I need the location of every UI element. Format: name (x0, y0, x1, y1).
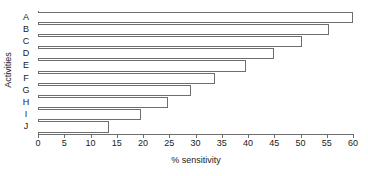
y-axis-title-text: Activities (3, 52, 13, 88)
bar-g (38, 85, 191, 96)
bar-row (38, 121, 353, 133)
sensitivity-bar-chart: Activities ABCDEFGHIJ 051015202530354045… (0, 0, 368, 176)
bar-e (38, 60, 246, 71)
x-axis-title: % sensitivity (38, 155, 354, 165)
y-axis-tick-label: I (18, 109, 34, 121)
x-axis-tick-label: 20 (138, 139, 148, 148)
bar-row (38, 35, 353, 47)
x-axis-tick-label: 5 (62, 139, 67, 148)
y-axis-tick-label: G (18, 84, 34, 96)
bar-row (38, 48, 353, 60)
x-axis-tick-label: 60 (348, 139, 358, 148)
x-axis-tick-label: 30 (190, 139, 200, 148)
bar-row (38, 11, 353, 23)
bar-series (38, 11, 353, 133)
bar-row (38, 23, 353, 35)
x-axis-tick-label: 45 (269, 139, 279, 148)
x-axis-tick-label: 55 (322, 139, 332, 148)
x-axis-tick-label: 50 (295, 139, 305, 148)
bar-h (38, 97, 168, 108)
bar-i (38, 109, 141, 120)
bar-row (38, 96, 353, 108)
bar-j (38, 121, 109, 132)
y-axis-tick-label: H (18, 96, 34, 108)
bar-row (38, 109, 353, 121)
y-axis-tick-label: J (18, 121, 34, 133)
plot-area (38, 11, 353, 133)
bar-row (38, 72, 353, 84)
y-axis-tick-label: C (18, 35, 34, 47)
bar-a (38, 12, 353, 23)
bar-d (38, 48, 274, 59)
x-axis-tick-label: 40 (243, 139, 253, 148)
y-axis-tick-label: A (18, 11, 34, 23)
y-axis-tick-label: D (18, 48, 34, 60)
y-axis-title: Activities (0, 0, 16, 140)
y-axis-tick-label: E (18, 60, 34, 72)
x-axis-tick-label: 25 (164, 139, 174, 148)
bar-row (38, 84, 353, 96)
x-axis-tick-label: 35 (217, 139, 227, 148)
bar-b (38, 24, 329, 35)
y-axis-tick-label: B (18, 23, 34, 35)
y-axis-tick-labels: ABCDEFGHIJ (18, 11, 34, 133)
x-axis-tick-label: 10 (85, 139, 95, 148)
y-axis-tick-label: F (18, 72, 34, 84)
bar-f (38, 73, 215, 84)
bar-c (38, 36, 302, 47)
x-axis-tick-label: 0 (35, 139, 40, 148)
x-axis-tick-label: 15 (112, 139, 122, 148)
bar-row (38, 60, 353, 72)
